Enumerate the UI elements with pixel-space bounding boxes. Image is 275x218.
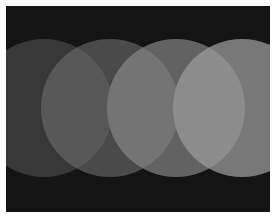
- overlapping-circles-image: [6, 6, 270, 212]
- image-frame: [6, 6, 270, 212]
- caption-text: — ———— ——— ——————: [0, 0, 151, 4]
- page: — ———— ——— ——————: [0, 0, 275, 218]
